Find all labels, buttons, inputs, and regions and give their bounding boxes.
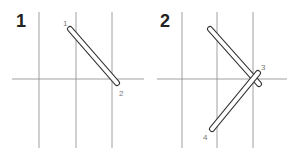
- stroke-order-diagram: 1 1 2 2 3 4: [0, 0, 294, 160]
- step-number-1: 1: [16, 11, 26, 31]
- point-label-2: 2: [119, 89, 124, 98]
- point-label-1: 1: [63, 19, 68, 28]
- panel-2-stroke-2: [212, 73, 258, 129]
- panel-1-grid: [12, 12, 144, 148]
- point-label-3: 3: [261, 63, 266, 72]
- panel-1-stroke: [70, 29, 117, 83]
- step-number-2: 2: [160, 11, 170, 31]
- panel-2-grid: [157, 12, 287, 148]
- point-label-4: 4: [203, 133, 208, 142]
